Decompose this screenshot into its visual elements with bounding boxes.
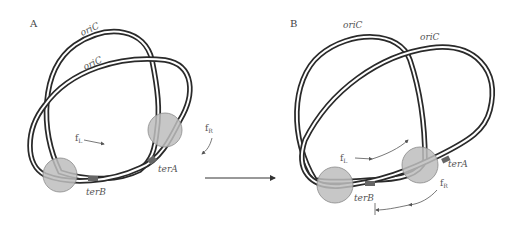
panel-b: B oriC oriC terA terB fL fR bbox=[290, 18, 492, 215]
replisome-right bbox=[402, 147, 438, 183]
replisome-right bbox=[148, 113, 182, 147]
replisome-left bbox=[317, 167, 353, 203]
ter-b-label: terB bbox=[86, 187, 106, 197]
ter-a-label: terA bbox=[448, 159, 468, 169]
replisome-left bbox=[43, 158, 77, 192]
panel-b-label: B bbox=[290, 18, 297, 29]
chromosome-loop-1 bbox=[46, 32, 158, 179]
ter-a-label: terA bbox=[158, 164, 178, 174]
fork-right-label: fR bbox=[205, 123, 213, 134]
fork-right-label: fR bbox=[440, 178, 448, 189]
ter-b-label: terB bbox=[354, 193, 374, 203]
fork-left-label: fL bbox=[340, 153, 347, 164]
ori-c-label-top: oriC bbox=[343, 20, 363, 30]
ter-b-site bbox=[365, 181, 375, 186]
replication-diagram: A oriC oriC terA terB fL fR B bbox=[0, 0, 516, 227]
panel-a: A oriC oriC terA terB fL fR bbox=[29, 18, 213, 197]
ori-c-label-inner: oriC bbox=[420, 32, 440, 42]
fork-left-label: fL bbox=[75, 133, 82, 144]
ter-b-site bbox=[88, 176, 98, 181]
panel-a-label: A bbox=[29, 18, 38, 29]
